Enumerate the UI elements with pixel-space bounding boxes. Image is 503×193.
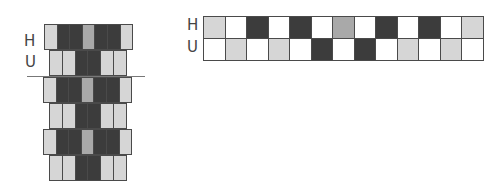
cell-light: [119, 129, 133, 155]
cell-dark: [56, 129, 70, 155]
cell-light: [49, 155, 63, 181]
cell-dark: [75, 103, 89, 129]
cell-light: [120, 24, 134, 50]
cell-white: [225, 16, 248, 39]
stack-row-u: [49, 155, 126, 181]
cell-light: [119, 77, 133, 103]
grid-row-u: [203, 38, 483, 61]
cell-light: [203, 16, 226, 39]
label-h: H: [187, 18, 198, 33]
cell-light: [397, 38, 420, 61]
cell-light: [440, 38, 463, 61]
cell-dark: [57, 24, 71, 50]
cell-mid: [81, 129, 95, 155]
cell-light: [113, 50, 127, 76]
stack-row-u: [49, 50, 126, 76]
cell-white: [375, 38, 398, 61]
cell-white: [203, 38, 226, 61]
cell-light: [49, 103, 63, 129]
label-u: U: [187, 40, 198, 55]
cell-dark: [68, 77, 82, 103]
cell-dark: [94, 24, 108, 50]
cell-white: [268, 16, 291, 39]
cell-dark: [93, 77, 107, 103]
cell-white: [311, 16, 334, 39]
cell-white: [440, 16, 463, 39]
grid-row-h: [203, 16, 483, 39]
cell-white: [461, 38, 484, 61]
cell-dark: [68, 129, 82, 155]
cell-light: [100, 103, 114, 129]
cell-dark: [75, 155, 89, 181]
cell-light: [43, 129, 57, 155]
cell-light: [62, 103, 76, 129]
cell-light: [268, 38, 291, 61]
cell-mid: [332, 16, 355, 39]
cell-light: [100, 155, 114, 181]
cell-white: [397, 16, 420, 39]
cell-light: [62, 50, 76, 76]
cell-dark: [56, 77, 70, 103]
cell-dark: [107, 24, 121, 50]
cell-dark: [87, 155, 101, 181]
cell-dark: [375, 16, 398, 39]
cell-light: [100, 50, 114, 76]
cell-light: [49, 50, 63, 76]
cell-light: [225, 38, 248, 61]
cell-light: [113, 103, 127, 129]
cell-dark: [289, 16, 312, 39]
label-u: U: [25, 55, 36, 70]
cell-white: [332, 38, 355, 61]
label-h: H: [24, 34, 35, 49]
cell-dark: [246, 16, 269, 39]
cell-dark: [87, 103, 101, 129]
cell-light: [113, 155, 127, 181]
cell-dark: [87, 50, 101, 76]
cell-dark: [311, 38, 334, 61]
cell-white: [246, 38, 269, 61]
stack-row-u: [49, 103, 126, 129]
cell-mid: [81, 77, 95, 103]
cell-light: [43, 77, 57, 103]
cell-white: [418, 38, 441, 61]
cell-white: [289, 38, 312, 61]
cell-dark: [418, 16, 441, 39]
cell-mid: [82, 24, 96, 50]
stack-row-h: [43, 77, 131, 103]
cell-dark: [69, 24, 83, 50]
cell-white: [354, 16, 377, 39]
stack-row-h: [43, 129, 131, 155]
cell-dark: [106, 77, 120, 103]
cell-dark: [106, 129, 120, 155]
cell-dark: [354, 38, 377, 61]
cell-dark: [93, 129, 107, 155]
cell-light: [62, 155, 76, 181]
cell-light: [44, 24, 58, 50]
cell-light: [461, 16, 484, 39]
stack-row-h: [44, 24, 132, 50]
cell-dark: [75, 50, 89, 76]
